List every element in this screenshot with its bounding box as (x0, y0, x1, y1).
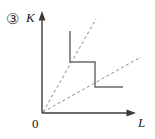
y-axis-label: K (26, 11, 35, 24)
x-axis (42, 110, 136, 117)
isoquant-step-curve (70, 31, 123, 87)
y-axis-arrowhead (39, 11, 46, 21)
item-number-label: ③ (6, 12, 19, 27)
x-axis-arrowhead (127, 110, 137, 117)
isoquant-figure: ③ K L 0 (0, 0, 155, 139)
y-axis (39, 11, 46, 113)
isoquant-chart-canvas (0, 0, 155, 139)
origin-label: 0 (32, 117, 39, 130)
x-axis-label: L (138, 116, 145, 129)
expansion-ray-shallow (43, 57, 141, 112)
